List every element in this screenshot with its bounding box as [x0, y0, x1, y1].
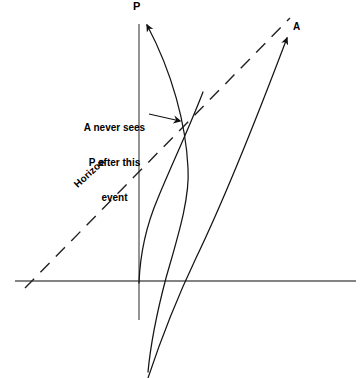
- event-callout-line-2: P after this: [83, 157, 146, 169]
- figure-canvas: P A Horizon A never sees P after this ev…: [0, 0, 363, 378]
- event-callout-line-1: A never sees: [83, 122, 146, 134]
- a-worldline-path: [148, 38, 287, 378]
- p-worldline-path: [147, 25, 188, 372]
- event-callout-text: A never sees P after this event: [83, 98, 146, 228]
- event-callout-line-3: event: [83, 192, 146, 204]
- horizon-dashed-line: [25, 18, 290, 288]
- a-worldline-label: A: [293, 22, 300, 33]
- p-worldline-second-branch-path: [139, 92, 203, 283]
- p-worldline-label: P: [133, 1, 141, 13]
- spacetime-diagram-svg: [0, 0, 363, 378]
- callout-pointer-arrow: [149, 114, 180, 121]
